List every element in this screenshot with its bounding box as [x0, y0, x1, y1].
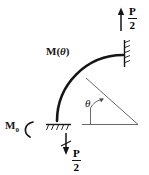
base-moment-subscript: 0 [15, 126, 19, 134]
bottom-force-denominator: 2 [72, 162, 81, 174]
base-moment-arrow [25, 122, 33, 137]
curved-beam-figure: M(θ) M0 θ P 2 P 2 [0, 0, 149, 175]
angle-label: θ [85, 98, 90, 109]
top-force-denominator: 2 [128, 20, 137, 32]
bottom-force-numerator: P [72, 148, 81, 160]
moment-function-suffix: ) [66, 45, 70, 57]
bottom-force-arrow [61, 133, 71, 155]
bottom-support-hatching [47, 125, 69, 130]
right-support-hatching [125, 41, 130, 63]
moment-function-label: M(θ) [46, 46, 69, 57]
bottom-force-label: P 2 [72, 148, 81, 173]
top-force-numerator: P [128, 6, 137, 18]
top-force-arrow [118, 8, 124, 32]
moment-function-prefix: M( [46, 45, 60, 57]
base-moment-symbol: M [5, 119, 15, 131]
angle-arc [91, 100, 102, 109]
base-moment-label: M0 [5, 120, 19, 134]
top-force-label: P 2 [128, 6, 137, 31]
angle-radius-line [86, 78, 138, 125]
